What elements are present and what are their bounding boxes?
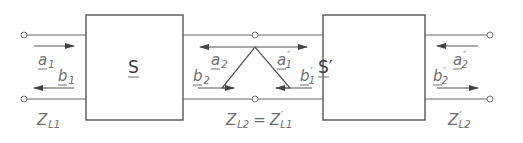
label-zl2-equals-zl1-prime: ZL2=Z′L1	[225, 110, 292, 130]
block-s-label: S	[128, 57, 139, 77]
svg-text:a1: a1	[38, 51, 55, 70]
label-b1: b1	[58, 67, 75, 86]
left-top-terminal	[21, 32, 27, 38]
label-zl1: ZL1	[36, 111, 60, 130]
label-b1-prime: b′1	[300, 66, 315, 86]
two-port-cascade-diagram: S S′ a1 b1 a2 b2	[0, 0, 523, 143]
svg-text:b′2: b′2	[433, 66, 448, 86]
label-b2: b2	[193, 67, 210, 86]
svg-text:a′1: a′1	[277, 50, 292, 70]
label-a2-prime: a′2	[453, 50, 468, 70]
b2-to-a1prime-arrow-icon	[222, 47, 307, 88]
svg-text:b′1: b′1	[300, 66, 315, 86]
left-bottom-terminal	[21, 96, 27, 102]
label-a2: a2	[211, 51, 228, 70]
label-zl2-prime: Z′L2	[447, 110, 471, 130]
label-a1: a1	[38, 51, 55, 70]
svg-text:b2: b2	[193, 67, 210, 86]
mid-top-terminal	[252, 32, 258, 38]
block-s-prime-label: S′	[318, 57, 333, 77]
label-a1-prime: a′1	[277, 50, 292, 70]
svg-text:b1: b1	[58, 67, 75, 86]
right-top-terminal	[487, 32, 493, 38]
right-bottom-terminal	[487, 96, 493, 102]
label-b2-prime: b′2	[433, 66, 448, 86]
svg-text:a′2: a′2	[453, 50, 468, 70]
mid-bottom-terminal	[252, 96, 258, 102]
svg-text:a2: a2	[211, 51, 228, 70]
block-s-prime	[323, 15, 425, 120]
